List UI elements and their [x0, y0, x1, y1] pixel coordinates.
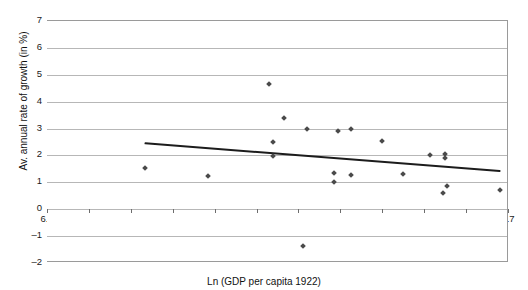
y-axis-title: Av. annual rate of growth (in %)	[19, 1, 29, 201]
scatter-chart-figure: Av. annual rate of growth (in %) Ln (GDP…	[0, 0, 528, 290]
x-axis-tick-mark	[508, 209, 509, 213]
plot-area	[47, 20, 508, 262]
x-axis-title: Ln (GDP per capita 1922)	[0, 277, 528, 287]
trendline	[47, 21, 507, 261]
y-axis-tick-label: 0	[26, 203, 42, 213]
y-axis-tick-label: –2	[26, 257, 42, 267]
y-axis-tick-label: –1	[26, 230, 42, 240]
